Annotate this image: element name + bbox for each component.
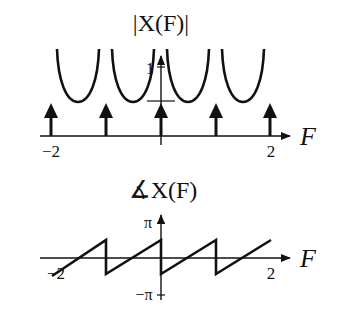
impulse-arrow-icon [209, 103, 223, 136]
phase-xlabel: F [299, 244, 317, 273]
lobe-4 [222, 49, 264, 102]
impulse-arrow-icon [154, 103, 168, 136]
phase-xtick-right: 2 [267, 264, 276, 283]
magnitude-impulses [44, 103, 277, 136]
impulse-arrow-icon [263, 103, 277, 136]
lobe-3 [167, 49, 209, 102]
phase-xtick-left: −2 [47, 264, 65, 283]
impulse-arrow-icon [99, 103, 113, 136]
phase-ytick-neg-pi: −π [135, 286, 152, 303]
magnitude-xtick-right: 2 [267, 142, 276, 161]
phase-plot: ∡X(F) π −π −2 2 F [40, 177, 317, 303]
phase-ytick-pi: π [144, 214, 152, 231]
spectrum-figure: |X(F)| 1 [0, 0, 340, 312]
magnitude-plot: |X(F)| 1 [40, 10, 317, 161]
magnitude-xlabel: F [299, 122, 317, 151]
magnitude-xtick-left: −2 [42, 142, 60, 161]
lobe-1 [57, 49, 99, 102]
phase-title: ∡X(F) [129, 177, 198, 203]
impulse-arrow-icon [44, 103, 58, 136]
magnitude-title: |X(F)| [133, 10, 189, 36]
